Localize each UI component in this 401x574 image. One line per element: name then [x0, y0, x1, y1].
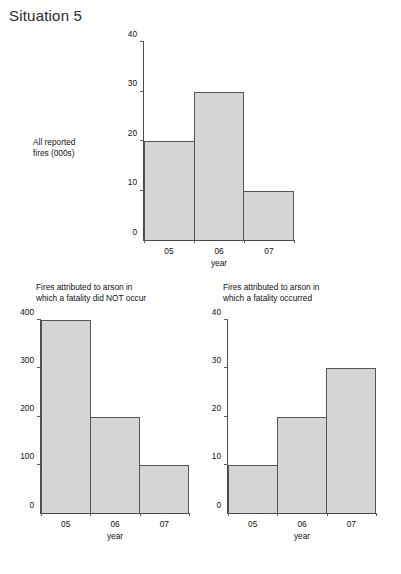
y-label-0: 0 — [132, 228, 144, 236]
x-tick-1 — [90, 513, 91, 516]
x-cat-05: 05 — [61, 520, 70, 528]
plot-area-arson-fatality: 0 10 20 30 40 05 06 07 year — [227, 320, 376, 514]
x-tick-1 — [194, 240, 195, 243]
y-label-30: 30 — [212, 356, 228, 364]
y-tick-100 — [37, 464, 41, 465]
y-label-20: 20 — [212, 404, 228, 412]
x-tick-2 — [327, 513, 328, 516]
x-cat-06: 06 — [110, 520, 119, 528]
y-label-10: 10 — [212, 452, 228, 460]
x-tick-0 — [144, 240, 145, 243]
x-tick-0 — [228, 513, 229, 516]
plot-area-all-reported-fires: 0 10 20 30 40 05 06 07 year — [143, 42, 294, 241]
bar-05 — [144, 141, 195, 240]
page-title: Situation 5 — [9, 7, 82, 24]
y-label-400: 400 — [20, 308, 41, 316]
y-label-300: 300 — [20, 356, 41, 364]
x-cat-06: 06 — [297, 520, 306, 528]
bar-06 — [277, 417, 327, 514]
y-label-100: 100 — [20, 452, 41, 460]
y-label-10: 10 — [128, 178, 144, 186]
x-cat-05: 05 — [248, 520, 257, 528]
bar-series-all-reported-fires — [144, 42, 294, 240]
y-tick-10 — [140, 190, 144, 191]
chart-title-arson-fatality: Fires attributed to arson in which a fat… — [223, 282, 401, 304]
plot-area-arson-no-fatality: 0 100 200 300 400 05 06 07 year — [40, 320, 189, 514]
x-tick-2 — [140, 513, 141, 516]
y-tick-40 — [140, 41, 144, 42]
x-tick-3 — [376, 513, 377, 516]
bar-06 — [90, 417, 140, 514]
y-label-40: 40 — [212, 308, 228, 316]
y-tick-400 — [37, 319, 41, 320]
bar-07 — [243, 191, 294, 241]
bar-07 — [326, 368, 376, 513]
x-tick-2 — [244, 240, 245, 243]
x-cat-07: 07 — [264, 247, 273, 255]
bar-05 — [41, 320, 91, 513]
x-cat-05: 05 — [164, 247, 173, 255]
bar-series-arson-fatality — [228, 320, 376, 513]
x-axis-title-all-reported-fires: year — [211, 259, 227, 267]
y-tick-20 — [140, 140, 144, 141]
clipped-footer-text — [9, 566, 389, 574]
y-label-200: 200 — [20, 404, 41, 412]
x-axis-title-arson-fatality: year — [294, 532, 310, 540]
x-tick-0 — [41, 513, 42, 516]
bar-series-arson-no-fatality — [41, 320, 189, 513]
y-tick-200 — [37, 416, 41, 417]
y-label-0: 0 — [29, 501, 41, 509]
bar-05 — [228, 465, 278, 513]
y-tick-30 — [224, 367, 228, 368]
bar-07 — [139, 465, 189, 513]
y-label-40: 40 — [128, 30, 144, 38]
chart-side-label-all-reported-fires: All reported fires (000s) — [33, 137, 133, 159]
y-tick-30 — [140, 91, 144, 92]
y-tick-300 — [37, 367, 41, 368]
y-tick-20 — [224, 416, 228, 417]
x-cat-06: 06 — [214, 247, 223, 255]
y-tick-10 — [224, 464, 228, 465]
x-cat-07: 07 — [160, 520, 169, 528]
x-tick-1 — [277, 513, 278, 516]
y-label-0: 0 — [216, 501, 228, 509]
y-label-20: 20 — [128, 129, 144, 137]
chart-title-arson-no-fatality: Fires attributed to arson in which a fat… — [36, 282, 236, 304]
x-tick-3 — [189, 513, 190, 516]
y-tick-40 — [224, 319, 228, 320]
x-cat-07: 07 — [347, 520, 356, 528]
bar-06 — [194, 92, 245, 241]
y-label-30: 30 — [128, 79, 144, 87]
x-axis-title-arson-no-fatality: year — [107, 532, 123, 540]
x-tick-3 — [294, 240, 295, 243]
